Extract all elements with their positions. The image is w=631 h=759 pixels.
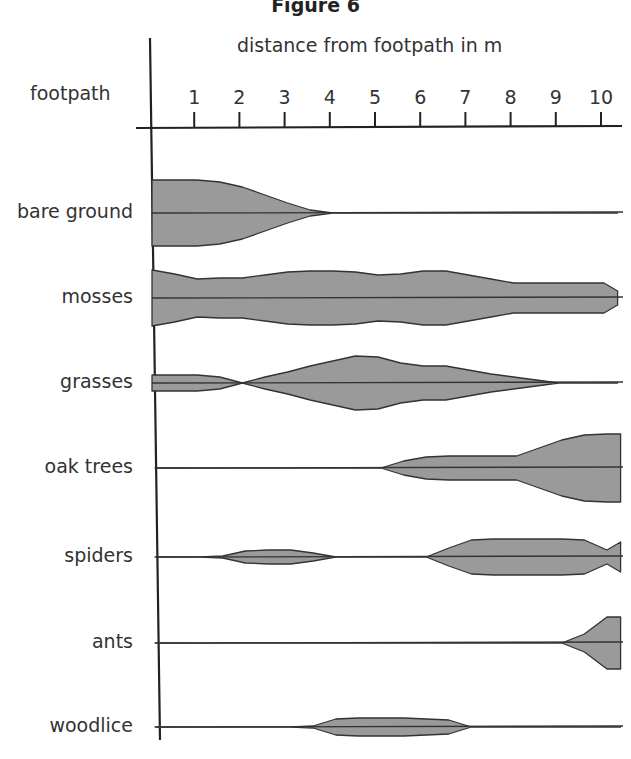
x-tick-label: 2 bbox=[233, 86, 245, 108]
row-label-bare-ground: bare ground bbox=[17, 200, 133, 222]
x-tick-label: 3 bbox=[279, 86, 291, 108]
row-label-spiders: spiders bbox=[64, 544, 133, 566]
row-label-woodlice: woodlice bbox=[49, 714, 133, 736]
x-tick-label: 10 bbox=[589, 86, 613, 108]
x-tick-label: 8 bbox=[505, 86, 517, 108]
row-label-mosses: mosses bbox=[61, 285, 133, 307]
x-tick-label: 7 bbox=[459, 86, 471, 108]
row-label-oak-trees: oak trees bbox=[45, 455, 133, 477]
x-tick-label: 5 bbox=[369, 86, 381, 108]
x-tick-label: 9 bbox=[550, 86, 562, 108]
x-axis-line bbox=[136, 126, 622, 128]
row-label-grasses: grasses bbox=[60, 370, 133, 392]
x-tick-label: 6 bbox=[414, 86, 426, 108]
x-tick-label: 4 bbox=[324, 86, 336, 108]
row-label-ants: ants bbox=[92, 630, 133, 652]
x-tick-label: 1 bbox=[188, 86, 200, 108]
